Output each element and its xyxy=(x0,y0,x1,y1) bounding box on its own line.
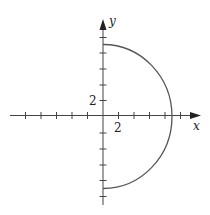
semicircle-curve xyxy=(103,45,172,189)
y-axis-label: y xyxy=(108,14,116,28)
x-axis-label: x xyxy=(193,119,200,133)
semicircle-plot: y x 2 2 xyxy=(0,0,210,215)
y-axis-arrow-icon xyxy=(100,19,107,30)
x-tick-label-2: 2 xyxy=(114,121,122,135)
y-tick-label-2: 2 xyxy=(89,94,97,108)
x-axis-arrow-icon xyxy=(190,112,201,119)
